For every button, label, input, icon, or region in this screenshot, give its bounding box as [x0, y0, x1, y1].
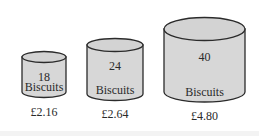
tin-small-unit: Biscuits	[20, 81, 68, 93]
biscuit-tins-diagram: 18 Biscuits £2.16 24 Biscuits £2.64 40 B…	[0, 0, 259, 136]
bottom-edge	[0, 131, 259, 136]
tin-small-price: £2.16	[20, 106, 68, 118]
tin-large-price: £4.80	[164, 110, 245, 122]
tin-medium-unit: Biscuits	[87, 84, 143, 96]
tin-medium-price: £2.64	[87, 108, 143, 120]
tin-large-unit: Biscuits	[164, 86, 245, 98]
tin-medium-count: 24	[87, 60, 143, 72]
tin-large-count: 40	[164, 51, 245, 63]
